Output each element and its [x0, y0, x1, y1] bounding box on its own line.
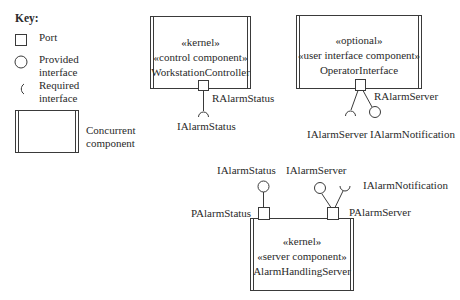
operator-interface-label: «optional» «user interface component» Op… — [296, 33, 422, 78]
ralarmstatus-port-label: RAlarmStatus — [212, 92, 274, 105]
component-name: OperatorInterface — [296, 63, 422, 78]
ialarmstatus-label: IAlarmStatus — [177, 120, 236, 133]
stereotype-kernel: «kernel» — [150, 35, 251, 50]
ialarmserver-provided-label: IAlarmServer — [286, 164, 346, 177]
key-title: Key: — [15, 12, 39, 25]
stereotype-user-interface-component: «user interface component» — [296, 48, 422, 63]
ralarmserver-port-label: RAlarmServer — [374, 90, 438, 103]
stereotype-optional: «optional» — [296, 33, 422, 48]
component-name: AlarmHandlingServer — [250, 264, 354, 279]
key-provided-interface-icon — [15, 56, 27, 68]
key-provided-label-2: interface — [39, 66, 77, 79]
key-port-icon — [16, 35, 27, 46]
ialarmserver-label: IAlarmServer — [307, 128, 367, 141]
ialarmstatus-provided-label: IAlarmStatus — [217, 164, 276, 177]
ialarmserver-provided-icon — [315, 183, 326, 194]
key-required-interface-icon — [21, 84, 24, 94]
component-name: WorkstationController — [150, 65, 251, 80]
key-required-label-2: interface — [39, 92, 77, 105]
stereotype-control-component: «control component» — [150, 50, 251, 65]
ialarmnotification-required-icon — [340, 186, 350, 191]
palarmserver-port-icon[interactable] — [328, 208, 339, 220]
stereotype-server-component: «server component» — [250, 249, 354, 264]
ialarmnotification-required-label: IAlarmNotification — [363, 179, 448, 192]
ialarmnotification-provided-icon — [370, 107, 381, 118]
ialarmnotification-label: IAlarmNotification — [370, 128, 455, 141]
key-provided-label-1: Provided — [39, 53, 79, 66]
ialarmstatus-required-icon — [199, 112, 209, 117]
ralarmserver-port-icon[interactable] — [356, 80, 366, 91]
ralarmstatus-port-icon[interactable] — [199, 81, 209, 91]
key-concurrent-label-2: component — [86, 137, 135, 150]
key-port-label: Port — [39, 31, 57, 44]
stereotype-kernel: «kernel» — [250, 234, 354, 249]
palarmstatus-port-icon[interactable] — [259, 208, 270, 220]
key-required-label-1: Required — [39, 79, 79, 92]
key-concurrent-label-1: Concurrent — [86, 124, 135, 137]
key-concurrent-component-icon — [16, 111, 79, 153]
palarmserver-port-label: PAlarmServer — [349, 206, 411, 219]
alarm-handling-server-label: «kernel» «server component» AlarmHandlin… — [250, 234, 354, 279]
ialarmstatus-provided-icon — [258, 181, 269, 192]
workstation-controller-label: «kernel» «control component» Workstation… — [150, 35, 251, 80]
ialarmserver-required-icon — [346, 111, 356, 116]
palarmstatus-port-label: PAlarmStatus — [191, 207, 251, 220]
